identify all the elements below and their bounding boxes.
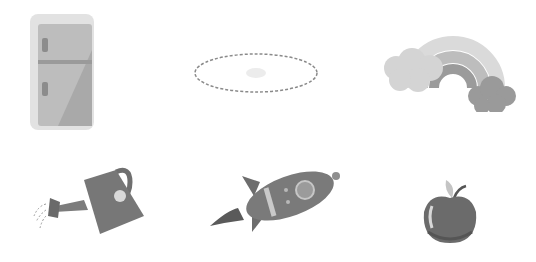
apple-image [420, 180, 480, 246]
apple-icon [420, 180, 480, 246]
rainbow-icon [378, 28, 518, 112]
dashed-oval-image [190, 50, 322, 96]
watering-can-icon [32, 160, 152, 234]
rainbow-image [378, 28, 518, 112]
rocket-image [208, 168, 342, 234]
rocket-icon [208, 168, 342, 234]
refrigerator-icon [28, 10, 98, 134]
dashed-oval-icon [190, 50, 322, 96]
watering-can-image [32, 160, 152, 234]
refrigerator-image [28, 10, 98, 134]
